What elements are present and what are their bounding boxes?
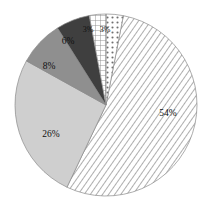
pie-slice-label: 6%: [62, 36, 75, 46]
pie-chart-figure: 54%26%8%6%3%3%: [0, 0, 210, 212]
pie-slice-label: 54%: [159, 108, 177, 118]
pie-slice-label: 8%: [43, 61, 56, 71]
pie-slice-label: 26%: [42, 129, 60, 139]
pie-slice-label: 3%: [83, 25, 94, 34]
pie-chart-svg: 54%26%8%6%3%3%: [0, 0, 210, 212]
pie-slice-layer: [15, 14, 197, 196]
pie-slice-label: 3%: [100, 25, 111, 34]
